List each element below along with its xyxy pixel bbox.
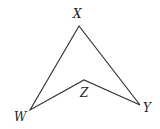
vertex-label-w: W [14,110,28,124]
vertex-label-z: Z [79,86,89,100]
vertex-label-y: Y [143,101,152,115]
diagram-canvas: X Y Z W [0,0,160,129]
vertex-label-x: X [72,7,82,21]
